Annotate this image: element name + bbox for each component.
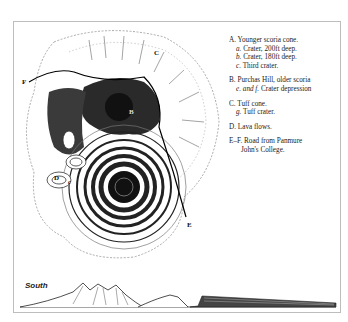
label-c-crater: c — [68, 178, 71, 186]
legend-item-a: A. Younger scoria cone. a. Crater, 200ft… — [229, 36, 341, 70]
legend-item-b: B. Purchas Hill, older scoria e. and f. … — [229, 76, 341, 93]
label-d-lava: D — [54, 174, 59, 182]
cross-section-profile — [18, 280, 340, 310]
legend-item-ef: E–F. Road from Panmure John's College. — [229, 137, 341, 154]
legend: A. Younger scoria cone. a. Crater, 200ft… — [229, 36, 341, 161]
legend-item-c: C. Tuff cone. g. Tuff crater. — [229, 100, 341, 117]
label-c-tuff: C — [154, 49, 159, 57]
label-b-purchas-hill: B — [129, 108, 134, 116]
legend-item-d: D. Lava flows. — [229, 123, 341, 132]
volcano-plan-map: F E C B D c — [14, 22, 226, 262]
label-f-road: F — [22, 78, 26, 86]
label-e-road: E — [187, 221, 192, 229]
